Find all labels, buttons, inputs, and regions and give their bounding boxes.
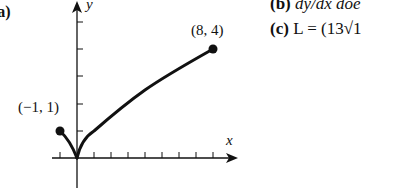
answer-c-letter: (c) <box>270 19 289 38</box>
start-point-marker <box>56 127 65 136</box>
curve-left-branch <box>60 131 77 158</box>
y-axis-label: y <box>86 0 93 12</box>
y-ticks <box>77 22 83 131</box>
end-point-marker <box>209 45 218 54</box>
start-point-label: (−1, 1) <box>18 100 59 115</box>
part-a-label: (a) <box>0 4 11 20</box>
answer-c: (c) L = (13√1 <box>270 20 361 37</box>
curve-right-branch <box>77 49 213 158</box>
answer-b-text: dy/dx doe <box>295 0 361 13</box>
answer-b: (b) dy/dx doe <box>270 0 361 12</box>
answer-c-text: L = (13√1 <box>293 19 361 38</box>
x-ticks <box>60 152 213 158</box>
x-axis-label: x <box>226 133 233 148</box>
answer-b-letter: (b) <box>270 0 291 13</box>
end-point-label: (8, 4) <box>191 23 224 38</box>
